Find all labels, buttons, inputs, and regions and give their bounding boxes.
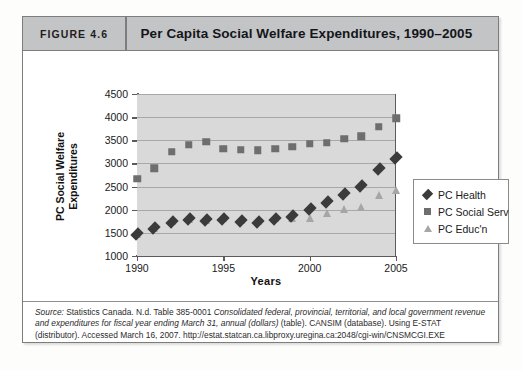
- x-axis-tick-label: 1995: [212, 262, 235, 274]
- data-point: [185, 141, 193, 149]
- data-point: [220, 145, 228, 153]
- gridline: [137, 163, 395, 164]
- data-point: [340, 135, 348, 143]
- data-point: [338, 187, 351, 200]
- figure-page: FIGURE 4.6 Per Capita Social Welfare Exp…: [0, 0, 523, 370]
- chart-legend: PC Health PC Social Serv PC Educ'n: [413, 179, 509, 244]
- data-point: [392, 186, 400, 194]
- x-axis-tick-label: 1990: [125, 262, 148, 274]
- legend-item-pc-social-serv: PC Social Serv: [421, 203, 502, 220]
- y-axis-tick-label: 3500: [105, 134, 128, 146]
- data-point: [392, 115, 400, 123]
- y-axis-tick-label: 2500: [105, 181, 128, 193]
- legend-label: PC Educ'n: [438, 223, 487, 235]
- data-point: [254, 146, 262, 154]
- data-point: [323, 139, 331, 147]
- legend-item-pc-health: PC Health: [421, 186, 502, 203]
- y-axis-tick: [132, 94, 137, 95]
- data-point: [389, 151, 402, 164]
- y-axis-tick-label: 3000: [105, 157, 128, 169]
- y-axis-title-text: PC Social WelfareExpenditures: [55, 131, 80, 220]
- source-url: http://estat.statcan.ca.libproxy.uregina…: [183, 330, 445, 340]
- x-axis-tick: [137, 256, 138, 261]
- y-axis-tick: [132, 117, 137, 118]
- y-axis-tick: [132, 163, 137, 164]
- data-point: [357, 203, 365, 211]
- x-axis-tick: [396, 256, 397, 261]
- data-point: [358, 132, 366, 140]
- y-axis-tick-label: 4500: [105, 88, 128, 100]
- plot-area: 1000150020002500300035004000450019901995…: [137, 94, 396, 256]
- data-point: [151, 164, 159, 172]
- data-point: [355, 179, 368, 192]
- data-point: [340, 205, 348, 213]
- legend-label: PC Health: [438, 189, 486, 201]
- data-point: [375, 191, 383, 199]
- x-axis-title: Years: [137, 275, 395, 287]
- triangle-marker-icon: [421, 225, 434, 232]
- source-divider: [23, 301, 498, 302]
- legend-item-pc-educn: PC Educ'n: [421, 220, 502, 237]
- data-point: [306, 140, 314, 148]
- figure-title: Per Capita Social Welfare Expenditures, …: [127, 26, 473, 41]
- figure-header: FIGURE 4.6 Per Capita Social Welfare Exp…: [23, 17, 498, 51]
- x-axis-tick-label: 2000: [298, 262, 321, 274]
- legend-label: PC Social Serv: [438, 206, 509, 218]
- data-point: [237, 146, 245, 154]
- x-axis-tick: [223, 256, 224, 261]
- y-axis-tick: [132, 210, 137, 211]
- y-axis-tick-label: 2000: [105, 204, 128, 216]
- data-point: [133, 175, 141, 183]
- data-point: [289, 143, 297, 151]
- y-axis-tick-label: 1000: [105, 250, 128, 262]
- source-rest: Statistics Canada. N.d. Table 385-0001: [64, 307, 214, 317]
- y-axis-title: PC Social WelfareExpenditures: [57, 101, 77, 251]
- y-axis-tick-label: 1500: [105, 227, 128, 239]
- y-axis-tick: [132, 187, 137, 188]
- gridline: [137, 94, 395, 95]
- data-point: [202, 138, 210, 146]
- figure-frame: FIGURE 4.6 Per Capita Social Welfare Exp…: [22, 16, 499, 343]
- x-axis-tick-label: 2005: [384, 262, 407, 274]
- diamond-marker-icon: [421, 191, 434, 198]
- square-marker-icon: [421, 208, 434, 215]
- x-axis-tick: [310, 256, 311, 261]
- gridline: [137, 210, 395, 211]
- source-prefix: Source:: [35, 307, 64, 317]
- data-point: [323, 209, 331, 217]
- data-point: [375, 123, 383, 131]
- gridline: [137, 117, 395, 118]
- data-point: [168, 148, 176, 156]
- gridline: [137, 233, 395, 234]
- y-axis-tick: [132, 140, 137, 141]
- source-note: Source: Statistics Canada. N.d. Table 38…: [35, 307, 487, 341]
- y-axis-tick-label: 4000: [105, 111, 128, 123]
- chart-region: PC Social WelfareExpenditures 1000150020…: [23, 51, 498, 301]
- gridline: [137, 140, 395, 141]
- figure-number: FIGURE 4.6: [23, 28, 125, 40]
- data-point: [320, 196, 333, 209]
- data-point: [271, 145, 279, 153]
